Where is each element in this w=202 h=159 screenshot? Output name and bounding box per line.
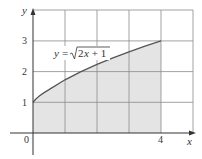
function-label: y = 2 x + 1 [52,46,110,60]
svg-text:2: 2 [78,47,84,59]
svg-text:+ 1: + 1 [89,47,106,59]
y-tick-2: 2 [22,66,27,77]
svg-text:y: y [53,47,59,59]
chart: y x 0 4 1 2 3 y = 2 x + 1 [0,0,202,159]
y-axis-label: y [21,4,27,16]
x-axis-label: x [186,135,192,147]
y-axis-arrow-icon [31,8,36,15]
y-tick-3: 3 [22,35,27,46]
origin-label: 0 [24,134,29,145]
svg-text:=: = [62,47,68,59]
x-tick-4: 4 [158,134,163,145]
y-tick-1: 1 [22,97,27,108]
